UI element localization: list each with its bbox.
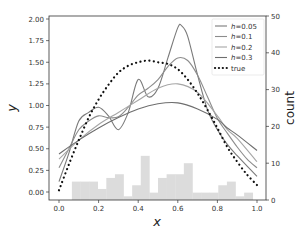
histogram-bar bbox=[227, 182, 236, 200]
histogram-bar bbox=[175, 174, 184, 200]
histogram-bar bbox=[132, 185, 141, 200]
x-tick-label: 0.4 bbox=[133, 205, 145, 213]
y-tick-label: 2.00 bbox=[28, 16, 44, 24]
histogram-bar bbox=[158, 178, 167, 200]
histogram-bar bbox=[184, 163, 193, 200]
histogram-bar bbox=[89, 182, 98, 200]
histogram-bar bbox=[80, 182, 89, 200]
right-tick-label: 40 bbox=[271, 49, 280, 57]
legend-label: h=0.3 bbox=[231, 54, 252, 62]
x-tick-label: 1.0 bbox=[251, 205, 262, 213]
histogram-bar bbox=[124, 196, 133, 200]
histogram-bar bbox=[201, 193, 210, 200]
x-tick-label: 0.2 bbox=[93, 205, 104, 213]
x-axis-label: x bbox=[152, 214, 161, 229]
y-tick-label: 0.25 bbox=[28, 167, 44, 175]
legend-label: h=0.2 bbox=[231, 44, 252, 52]
y-axis-ticks: 0.000.250.500.751.001.251.501.752.00 bbox=[28, 16, 49, 197]
x-axis-ticks: 0.00.20.40.60.81.0 bbox=[53, 200, 262, 213]
right-tick-label: 20 bbox=[271, 123, 280, 131]
kde-bandwidth-chart: 0.00.20.40.60.81.0 0.000.250.500.751.001… bbox=[0, 0, 306, 234]
histogram-bar bbox=[72, 182, 81, 200]
histogram-bars bbox=[72, 156, 253, 200]
legend: h=0.05h=0.1h=0.2h=0.3true bbox=[212, 19, 264, 75]
histogram-bar bbox=[149, 193, 158, 200]
right-tick-label: 0 bbox=[271, 197, 275, 205]
y-tick-label: 0.00 bbox=[28, 189, 44, 197]
histogram-bar bbox=[106, 178, 115, 200]
y-tick-label: 0.50 bbox=[28, 145, 44, 153]
right-tick-label: 30 bbox=[271, 86, 280, 94]
histogram-bar bbox=[210, 193, 219, 200]
histogram-bar bbox=[167, 174, 176, 200]
x-tick-label: 0.6 bbox=[172, 205, 184, 213]
histogram-bar bbox=[98, 189, 107, 200]
legend-label: h=0.05 bbox=[231, 23, 257, 31]
series-h-0-2 bbox=[59, 84, 257, 162]
right-axis-label: count bbox=[283, 91, 297, 125]
y-tick-label: 0.75 bbox=[28, 124, 44, 132]
right-axis-ticks: 01020304050 bbox=[266, 13, 280, 205]
y-tick-label: 1.50 bbox=[28, 59, 44, 67]
y-tick-label: 1.00 bbox=[28, 102, 44, 110]
histogram-bar bbox=[218, 185, 227, 200]
x-tick-label: 0.8 bbox=[212, 205, 223, 213]
histogram-bar bbox=[236, 196, 245, 200]
y-axis-label: y bbox=[4, 104, 19, 113]
y-tick-label: 1.75 bbox=[28, 37, 44, 45]
y-tick-label: 1.25 bbox=[28, 80, 44, 88]
right-tick-label: 50 bbox=[271, 13, 280, 21]
histogram-bar bbox=[115, 174, 124, 200]
x-tick-label: 0.0 bbox=[53, 205, 64, 213]
legend-label: true bbox=[231, 65, 245, 73]
histogram-bar bbox=[141, 156, 150, 200]
legend-label: h=0.1 bbox=[231, 33, 252, 41]
right-tick-label: 10 bbox=[271, 160, 280, 168]
histogram-bar bbox=[244, 193, 253, 200]
histogram-bar bbox=[192, 193, 201, 200]
